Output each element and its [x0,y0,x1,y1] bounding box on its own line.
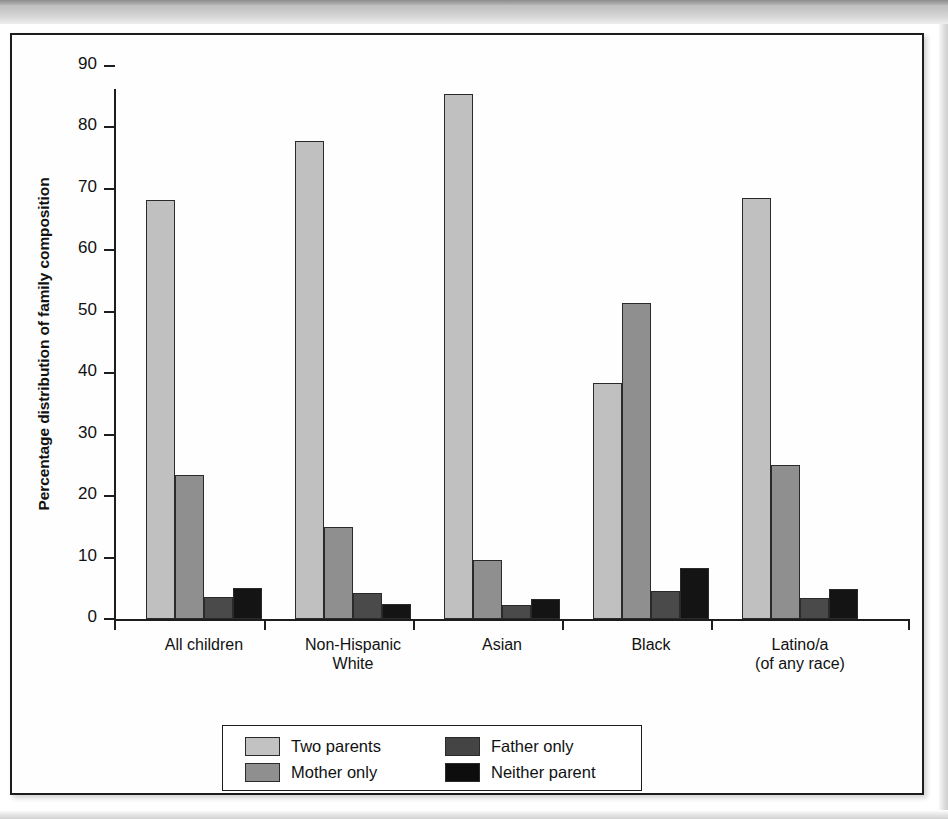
bar [829,589,858,619]
legend-swatch-father-only [445,737,480,756]
y-tick-label-30: 30 [57,423,97,443]
chart-plot-area: Percentage distribution of family compos… [12,35,922,793]
bar [651,591,680,619]
x-tick-2 [413,619,415,630]
y-tick-label-50: 50 [57,300,97,320]
y-tick-90: 90 [104,65,115,67]
bar [531,599,560,619]
x-axis-line [114,619,909,621]
bar [295,141,324,619]
bar [233,588,262,619]
y-tick-10: 10 [104,557,115,559]
bar [771,465,800,619]
x-tick-5 [908,619,910,630]
bar [800,598,829,619]
page-right-edge-shadow [938,24,948,819]
y-tick-label-20: 20 [57,484,97,504]
legend-label-two-parents: Two parents [291,737,381,756]
x-axis-label-line: (of any race) [700,654,900,673]
legend-entry-neither-parent: Neither parent [445,763,655,782]
y-tick-label-90: 90 [57,54,97,74]
y-tick-80: 80 [104,126,115,128]
bar [175,475,204,619]
y-tick-30: 30 [104,434,115,436]
bar [382,604,411,619]
bar [680,568,709,619]
page-bottom-edge-shadow [0,810,948,819]
y-tick-70: 70 [104,188,115,190]
y-tick-label-40: 40 [57,361,97,381]
legend-entry-father-only: Father only [445,737,655,756]
legend-label-neither-parent: Neither parent [491,763,596,782]
x-axis-label-4: Latino/a(of any race) [700,635,900,673]
bar [593,383,622,619]
y-tick-50: 50 [104,311,115,313]
bar [353,593,382,619]
chart-legend: Two parents Father only Mother only Neit… [222,725,642,791]
legend-swatch-two-parents [245,737,280,756]
figure-frame: Percentage distribution of family compos… [10,33,924,795]
y-tick-label-0: 0 [57,607,97,627]
bar [146,200,175,619]
bar [324,527,353,619]
y-tick-label-10: 10 [57,546,97,566]
y-tick-label-60: 60 [57,238,97,258]
x-tick-3 [562,619,564,630]
legend-entry-mother-only: Mother only [245,763,445,782]
bar-group-4 [742,88,858,619]
y-tick-20: 20 [104,495,115,497]
bar-group-0 [146,88,262,619]
x-tick-4 [711,619,713,630]
y-axis-line [114,89,116,620]
bar [622,303,651,619]
bar [444,94,473,619]
bar-group-1 [295,88,411,619]
y-axis-title: Percentage distribution of family compos… [35,84,53,604]
x-tick-0 [114,619,116,630]
legend-swatch-mother-only [245,763,280,782]
legend-label-mother-only: Mother only [291,763,377,782]
y-tick-label-70: 70 [57,177,97,197]
bar [502,605,531,619]
y-tick-label-80: 80 [57,115,97,135]
legend-swatch-neither-parent [445,763,480,782]
x-axis-label-line: White [253,654,453,673]
x-tick-1 [264,619,266,630]
legend-entry-two-parents: Two parents [245,737,445,756]
y-tick-40: 40 [104,372,115,374]
y-tick-60: 60 [104,249,115,251]
bar-group-3 [593,88,709,619]
bar [742,198,771,620]
legend-label-father-only: Father only [491,737,574,756]
bar-group-2 [444,88,560,619]
bar [204,597,233,619]
page-top-gray-band [0,0,948,24]
bar [473,560,502,619]
x-axis-label-line: Latino/a [700,635,900,654]
